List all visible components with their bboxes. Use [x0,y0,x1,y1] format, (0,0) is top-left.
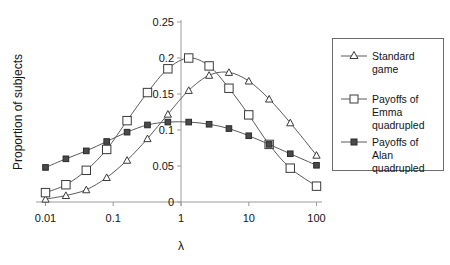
legend-label-1-line2: game [372,63,398,75]
open-square-marker [205,62,213,70]
proportion-of-subjects-line-chart: 0 0.05 0.1 0.15 0.2 0.25 0.01 0.1 1 10 1… [0,0,450,265]
solid-square-marker [266,142,272,148]
y-axis-title: Proportion of subjects [11,54,25,170]
solid-square-marker [63,156,69,162]
x-tick-label-1: 0.1 [106,212,121,224]
solid-square-marker [145,122,151,128]
open-square-icon [350,95,358,103]
legend-label-2-line2: Emma [372,106,402,118]
solid-square-marker [186,119,192,125]
solid-square-marker [43,165,49,171]
solid-square-marker [83,148,89,154]
solid-square-marker [165,119,171,125]
solid-square-marker [314,162,320,168]
open-square-marker [123,116,131,124]
y-tick-label-0: 0 [168,196,174,208]
y-tick-label-5: 0.25 [153,16,174,28]
open-square-marker [225,84,233,92]
solid-square-marker [206,121,212,127]
legend-label-1-line1: Standard [372,50,415,62]
open-square-marker [185,54,193,62]
legend-label-3-line1: Payoffs of [372,136,419,148]
solid-square-marker [124,129,130,135]
x-tick-label-0: 0.01 [35,212,56,224]
x-tick-label-4: 100 [307,212,325,224]
x-tick-label-2: 1 [178,212,184,224]
open-square-marker [143,88,151,96]
legend-label-2-line3: quadrupled [372,119,425,131]
open-square-marker [164,65,172,73]
open-square-marker [312,182,320,190]
open-square-marker [245,111,253,119]
open-square-marker [102,145,110,153]
x-tick-label-3: 10 [243,212,255,224]
x-axis-title: λ [178,239,184,253]
solid-square-marker [104,139,110,145]
solid-square-icon [351,139,357,145]
solid-square-marker [246,133,252,139]
y-tick-label-4: 0.2 [159,52,174,64]
y-tick-label-3: 0.15 [153,88,174,100]
solid-square-marker [226,126,232,132]
open-square-marker [41,188,49,196]
y-tick-label-2: 0.1 [159,124,174,136]
open-square-marker [82,166,90,174]
chart-background [0,0,450,265]
y-tick-label-1: 0.05 [153,160,174,172]
legend-label-3-line2: Alan [372,149,393,161]
legend-label-3-line3: quadrupled [372,162,425,174]
chart-figure: 0 0.05 0.1 0.15 0.2 0.25 0.01 0.1 1 10 1… [0,0,450,265]
open-square-marker [286,164,294,172]
solid-square-marker [287,151,293,157]
legend-label-2-line1: Payoffs of [372,93,419,105]
open-square-marker [62,181,70,189]
